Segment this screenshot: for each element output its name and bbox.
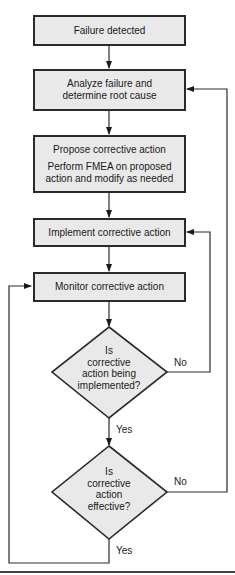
decision-line: Is — [59, 345, 159, 357]
node-label: action and modify as needed — [46, 173, 174, 185]
node-label: Perform FMEA on proposed — [48, 161, 172, 173]
node-label: Propose corrective action — [53, 144, 166, 156]
decision-line: corrective — [59, 478, 159, 490]
edge-label-effective-no: No — [174, 476, 187, 487]
bottom-rule — [0, 571, 235, 573]
decision-line: implemented? — [59, 380, 159, 392]
node-label: determine root cause — [63, 90, 157, 102]
node-analyze-failure: Analyze failure and determine root cause — [33, 69, 186, 111]
edge-label-implemented-yes: Yes — [116, 424, 132, 435]
decision-text-effective: Is corrective action effective? — [59, 466, 159, 512]
node-failure-detected: Failure detected — [33, 15, 186, 46]
edge-label-implemented-no: No — [174, 357, 187, 368]
edge-label-effective-yes: Yes — [116, 545, 132, 556]
node-label: Analyze failure and — [67, 78, 152, 90]
decision-line: effective? — [59, 501, 159, 513]
decision-line: Is — [59, 466, 159, 478]
decision-line: action — [59, 489, 159, 501]
decision-line: action being — [59, 368, 159, 380]
node-label: Failure detected — [74, 25, 146, 37]
node-implement-action: Implement corrective action — [33, 218, 186, 247]
decision-line: corrective — [59, 357, 159, 369]
node-propose-action: Propose corrective action Perform FMEA o… — [33, 135, 186, 193]
node-label: Monitor corrective action — [55, 281, 164, 293]
node-monitor-action: Monitor corrective action — [33, 272, 186, 302]
node-label: Implement corrective action — [48, 227, 170, 239]
decision-text-implemented: Is corrective action being implemented? — [59, 345, 159, 391]
